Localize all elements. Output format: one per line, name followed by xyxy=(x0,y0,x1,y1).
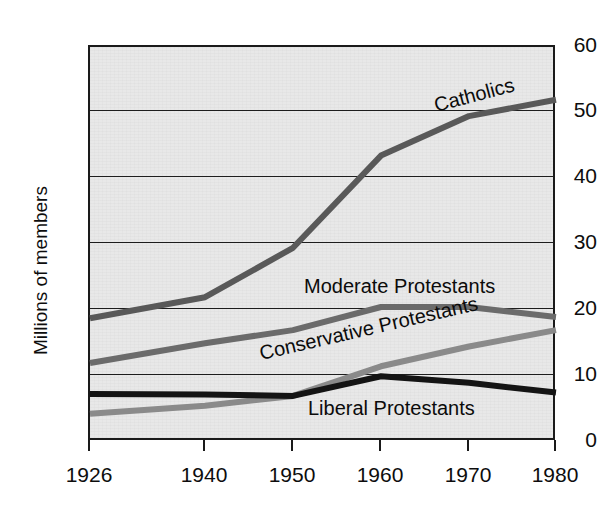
series-label-liberal-protestants: Liberal Protestants xyxy=(308,398,475,418)
x-tick-mark-1970 xyxy=(467,440,469,451)
x-tick-label-1970: 1970 xyxy=(428,464,508,485)
line-chart: Millions of members 60 50 40 30 20 10 0 … xyxy=(0,0,597,513)
x-tick-label-1950: 1950 xyxy=(252,464,332,485)
x-tick-mark-1940 xyxy=(203,440,205,451)
x-tick-mark-1950 xyxy=(291,440,293,451)
x-tick-label-1940: 1940 xyxy=(164,464,244,485)
series-lines xyxy=(90,47,557,442)
x-tick-label-1960: 1960 xyxy=(340,464,420,485)
x-tick-mark-1980 xyxy=(554,440,556,451)
x-tick-label-1926: 1926 xyxy=(49,464,129,485)
x-tick-label-1980: 1980 xyxy=(515,464,595,485)
plot-area: Catholics Moderate Protestants Conservat… xyxy=(88,45,555,440)
y-axis-title: Millions of members xyxy=(30,186,52,355)
x-tick-mark-1960 xyxy=(379,440,381,451)
x-tick-mark-1926 xyxy=(88,440,90,451)
